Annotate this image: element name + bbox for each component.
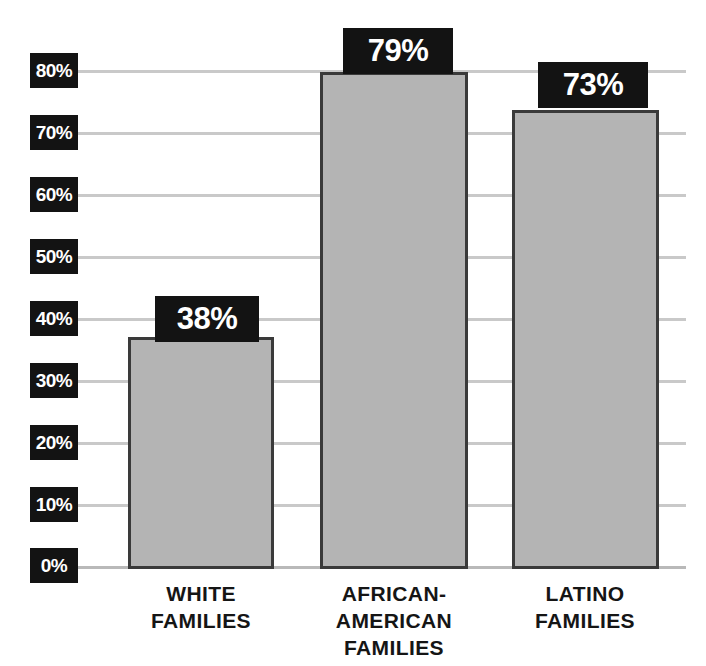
data-label-african-american-families: 79% bbox=[343, 28, 453, 74]
x-label-african-american-families: AFRICAN- AMERICAN FAMILIES bbox=[312, 580, 476, 661]
y-tick-60: 60% bbox=[30, 177, 78, 212]
y-tick-30: 30% bbox=[30, 363, 78, 398]
bar-white-families bbox=[128, 337, 274, 569]
x-label-white-families: WHITE FAMILIES bbox=[128, 580, 274, 634]
y-tick-50: 50% bbox=[30, 239, 78, 274]
data-label-white-families: 38% bbox=[155, 296, 259, 342]
bar-latino-families bbox=[512, 110, 659, 569]
data-label-latino-families: 73% bbox=[538, 62, 648, 108]
x-label-latino-families: LATINO FAMILIES bbox=[508, 580, 662, 634]
bar-chart: 80% 70% 60% 50% 40% 30% 20% 10% 0% 38% 7… bbox=[0, 0, 706, 666]
y-tick-70: 70% bbox=[30, 115, 78, 150]
y-tick-40: 40% bbox=[30, 301, 78, 336]
y-tick-80: 80% bbox=[30, 53, 78, 88]
y-tick-0: 0% bbox=[30, 548, 78, 583]
bar-african-american-families bbox=[320, 72, 468, 569]
y-tick-10: 10% bbox=[30, 487, 78, 522]
y-tick-20: 20% bbox=[30, 425, 78, 460]
